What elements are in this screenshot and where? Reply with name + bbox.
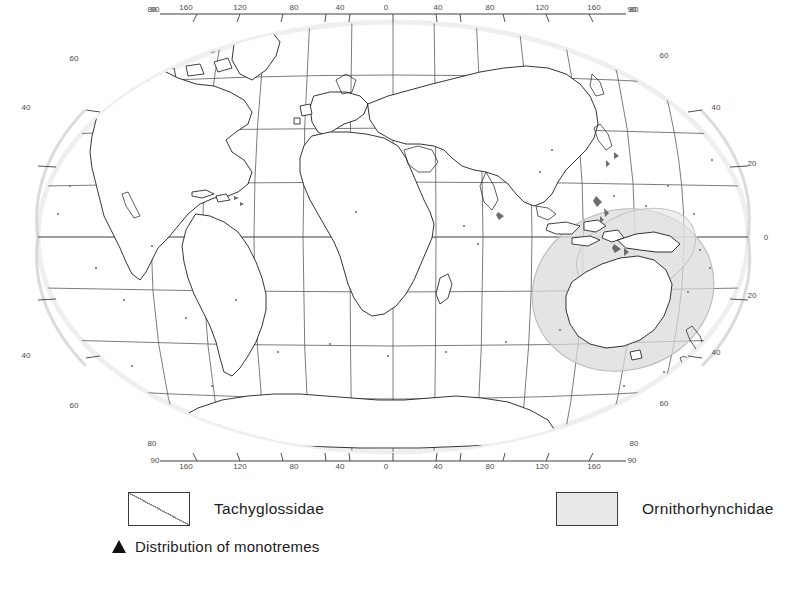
triangle-icon [112,540,126,553]
lat-left-5: 80 [148,5,157,14]
legend-label-ornithorhynchidae: Ornithorhynchidae [642,500,774,518]
lat-right-0: 80 [630,5,639,14]
lon-bottom-4: 40 [336,462,345,471]
lat-right-2: 40 [712,103,721,112]
lon-bottom-8: 120 [535,462,549,471]
lon-top-2: 120 [233,3,247,12]
lon-bottom-0: 90 [151,456,160,465]
lon-top-5: 0 [384,3,389,12]
legend-note-label: Distribution of monotremes [135,538,319,555]
lat-right-3: 20 [748,159,757,168]
lat-left-1: 40 [22,103,31,112]
lat-right-7: 60 [660,399,669,408]
lon-bottom-2: 120 [233,462,247,471]
lon-top-4: 40 [336,3,345,12]
lat-right-8: 80 [630,439,639,448]
lon-top-9: 160 [587,3,601,12]
legend-label-tachyglossidae: Tachyglossidae [214,500,324,518]
lat-right-6: 40 [712,348,721,357]
lon-top-6: 40 [434,3,443,12]
monotreme-distribution-figure: 90 160 120 80 40 0 40 80 120 160 90 [0,0,786,590]
legend-item-tachyglossidae: Tachyglossidae [128,492,324,526]
world-map: 90 160 120 80 40 0 40 80 120 160 90 [0,0,786,478]
lon-bottom-6: 40 [434,462,443,471]
legend-swatch-tachyglossidae [128,492,190,526]
lat-right-4: 0 [764,233,769,242]
lat-left-0: 60 [70,54,79,63]
lon-bottom-10: 90 [628,456,637,465]
lat-right-5: 20 [748,291,757,300]
lon-bottom-7: 80 [486,462,495,471]
longitude-axis-bottom: 90 160 120 80 40 0 40 80 120 160 90 [151,453,637,471]
map-svg: 90 160 120 80 40 0 40 80 120 160 90 [0,0,786,478]
lon-bottom-1: 160 [179,462,193,471]
lon-bottom-3: 80 [290,462,299,471]
lat-left-4: 80 [148,439,157,448]
lat-left-3: 60 [70,401,79,410]
lat-right-1: 60 [660,51,669,60]
lon-bottom-5: 0 [384,462,389,471]
legend-swatch-ornithorhynchidae [556,492,618,526]
lon-top-7: 80 [486,3,495,12]
lat-left-2: 40 [22,351,31,360]
lon-top-8: 120 [535,3,549,12]
lon-bottom-9: 160 [587,462,601,471]
lon-top-3: 80 [290,3,299,12]
map-legend: Tachyglossidae Ornithorhynchidae Distrib… [0,478,786,590]
longitude-axis-top: 90 160 120 80 40 0 40 80 120 160 90 [151,3,637,22]
legend-item-ornithorhynchidae: Ornithorhynchidae [556,492,774,526]
lon-top-1: 160 [179,3,193,12]
legend-note: Distribution of monotremes [112,538,319,555]
